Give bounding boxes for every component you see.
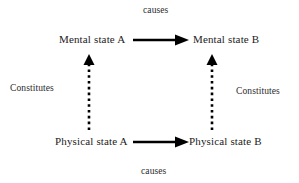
node-mental-state-a: Mental state A xyxy=(59,33,125,46)
arrow-constitutes-right-icon xyxy=(205,54,219,130)
edge-label-constitutes-right: Constitutes xyxy=(236,85,280,97)
edge-label-constitutes-left: Constitutes xyxy=(10,82,54,94)
edge-label-causes-bottom: causes xyxy=(141,165,166,177)
node-physical-state-b: Physical state B xyxy=(189,135,262,148)
edge-label-causes-top: causes xyxy=(143,4,168,16)
diagram-canvas: causes Mental state A Mental state B Con… xyxy=(0,0,299,183)
node-mental-state-b: Mental state B xyxy=(193,33,259,46)
arrow-causes-bottom-icon xyxy=(133,135,189,149)
node-physical-state-a: Physical state A xyxy=(55,135,128,148)
arrow-causes-top-icon xyxy=(133,33,189,47)
arrow-constitutes-left-icon xyxy=(82,54,96,130)
